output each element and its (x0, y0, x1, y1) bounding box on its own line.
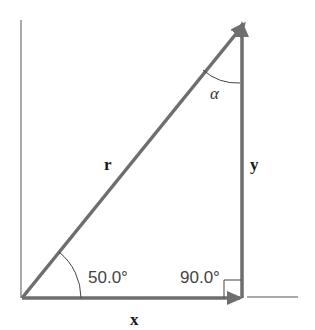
label-x: x (130, 310, 139, 329)
top-angle-arc (203, 70, 240, 83)
r-vector (22, 24, 244, 298)
label-base-angle: 50.0° (88, 268, 128, 287)
right-angle-marker (224, 280, 241, 298)
vector-triangle-diagram: r y x α 50.0° 90.0° (0, 0, 315, 330)
base-angle-arc (59, 252, 81, 298)
label-r: r (104, 155, 112, 174)
label-right-angle: 90.0° (180, 268, 220, 287)
label-y: y (250, 155, 259, 174)
label-alpha: α (210, 84, 220, 103)
